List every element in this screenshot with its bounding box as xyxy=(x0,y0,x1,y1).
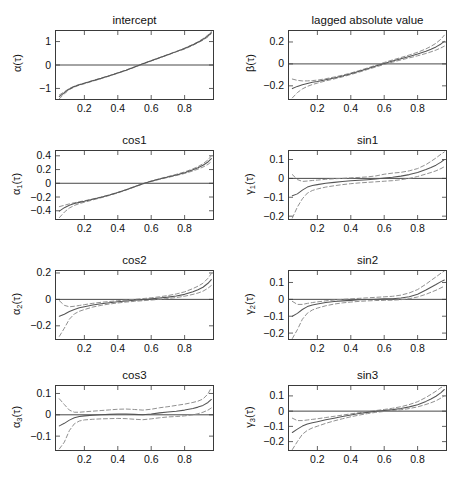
x-tick-label: 0.2 xyxy=(302,454,332,465)
panel-sin3: sin3−0.2−0.100.10.20.40.60.8γ3(τ) xyxy=(0,0,465,480)
panel-title: sin3 xyxy=(288,369,447,382)
y-axis-label-subscript: 3 xyxy=(248,418,257,422)
quantile-regression-coefficient-figure: intercept−1010.20.40.60.8α(τ)lagged abso… xyxy=(0,0,465,480)
y-axis-label-base: γ xyxy=(243,422,255,428)
x-tick-label: 0.6 xyxy=(369,454,399,465)
plot-area xyxy=(288,385,447,451)
y-axis-label-tail: (τ) xyxy=(243,406,255,418)
series-lower-band xyxy=(292,396,444,450)
y-axis-label: γ3(τ) xyxy=(243,389,257,445)
x-tick-label: 0.8 xyxy=(403,454,433,465)
x-tick-label: 0.4 xyxy=(336,454,366,465)
